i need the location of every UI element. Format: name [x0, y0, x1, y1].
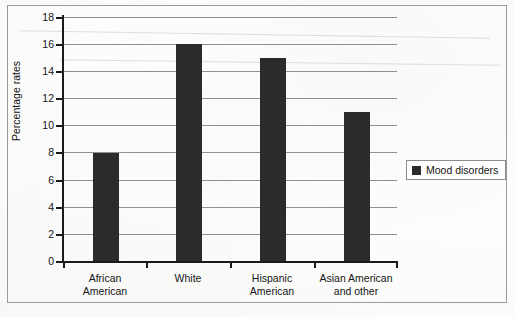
- bar-asian-american-and-other: [344, 112, 370, 261]
- chart-legend: Mood disorders: [406, 160, 506, 180]
- gridline: [63, 71, 397, 72]
- chart-figure: Percentage rates 18 16 14 12 10 8 6 4 2 …: [0, 0, 515, 317]
- bar-white: [176, 44, 202, 261]
- x-category-label-asian-american-and-other: Asian American and other: [310, 272, 402, 297]
- y-tick-label: 0: [14, 255, 54, 267]
- x-tick-mark: [314, 261, 316, 268]
- gridline: [63, 17, 397, 18]
- y-tick-label: 12: [14, 92, 54, 104]
- plot-area: [63, 17, 397, 261]
- x-tick-mark: [230, 261, 232, 268]
- y-tick-label: 2: [14, 228, 54, 240]
- gridline: [63, 44, 397, 45]
- y-tick-label: 14: [14, 65, 54, 77]
- gridline: [63, 98, 397, 99]
- y-tick-label: 10: [14, 119, 54, 131]
- y-axis-line: [62, 15, 64, 263]
- x-tick-mark: [63, 261, 65, 268]
- x-category-label-hispanic-american: Hispanic American: [230, 272, 314, 297]
- bar-hispanic-american: [260, 58, 286, 261]
- y-tick-label: 8: [14, 146, 54, 158]
- legend-swatch-icon: [412, 166, 421, 175]
- y-tick-label: 4: [14, 201, 54, 213]
- x-tick-mark: [146, 261, 148, 268]
- bar-african-american: [93, 153, 119, 261]
- y-tick-label: 6: [14, 174, 54, 186]
- y-tick-label: 16: [14, 38, 54, 50]
- y-axis-tick-labels: 18 16 14 12 10 8 6 4 2 0: [8, 0, 54, 317]
- x-category-label-white: White: [146, 272, 230, 285]
- x-tick-mark: [396, 261, 398, 268]
- legend-entry-label: Mood disorders: [426, 164, 498, 176]
- x-category-label-african-american: African American: [63, 272, 147, 297]
- y-tick-label: 18: [14, 11, 54, 23]
